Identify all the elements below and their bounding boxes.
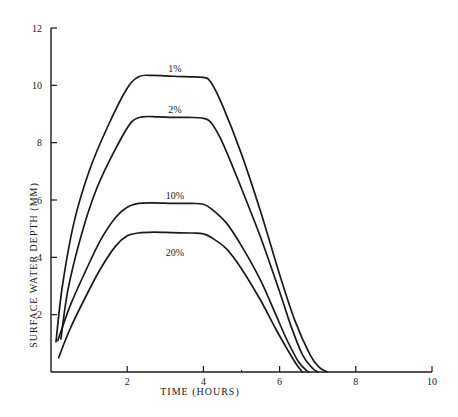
x-axis-ticks: 246810 — [125, 366, 437, 387]
x-axis-title: TIME (HOURS) — [160, 386, 240, 398]
series-label: 1% — [168, 63, 181, 74]
y-tick-label: 12 — [32, 23, 42, 34]
series-line-10pct — [58, 203, 308, 372]
chart-canvas: 24681012 246810 TIME (HOURS) SURFACE WAT… — [0, 0, 458, 417]
axes — [51, 28, 432, 372]
series-line-1pct — [56, 75, 327, 372]
data-series — [56, 75, 327, 372]
x-tick-label: 8 — [353, 376, 358, 387]
y-tick-label: 10 — [32, 80, 42, 91]
x-tick-label: 2 — [125, 376, 130, 387]
surface-water-depth-chart: 24681012 246810 TIME (HOURS) SURFACE WAT… — [0, 0, 458, 417]
y-axis-title: SURFACE WATER DEPTH (MM) — [28, 182, 40, 348]
series-label: 10% — [166, 190, 184, 201]
x-tick-label: 10 — [427, 376, 437, 387]
series-label: 2% — [168, 104, 181, 115]
series-label: 20% — [166, 247, 184, 258]
y-tick-label: 8 — [37, 137, 42, 148]
x-tick-label: 6 — [277, 376, 282, 387]
series-labels: 1%2%10%20% — [166, 63, 184, 259]
